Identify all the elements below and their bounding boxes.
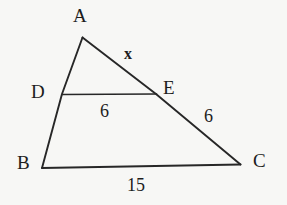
segment-ab	[42, 38, 83, 169]
length-label-ae: x	[124, 46, 132, 62]
vertex-label-c: C	[253, 151, 266, 170]
vertex-label-b: B	[17, 153, 30, 172]
length-label-de: 6	[100, 102, 109, 120]
segment-de	[62, 94, 157, 95]
vertex-label-e: E	[163, 78, 175, 97]
vertex-label-a: A	[73, 6, 87, 25]
length-label-bc: 15	[127, 176, 145, 194]
geometry-diagram: A B C D E x 6 6 15	[0, 0, 287, 205]
vertex-label-d: D	[31, 82, 45, 101]
segment-bc	[42, 165, 241, 169]
length-label-ec: 6	[204, 107, 213, 125]
